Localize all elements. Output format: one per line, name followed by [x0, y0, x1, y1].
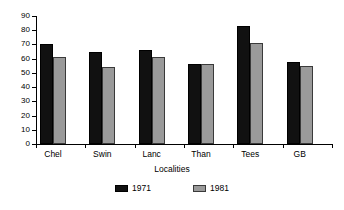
bar-tees-1971 [237, 26, 250, 144]
legend-item-1981: 1981 [193, 184, 229, 193]
x-category-label-chel: Chel [44, 150, 61, 159]
bar-chel-1981 [53, 57, 66, 144]
x-tick [332, 144, 333, 148]
bar-group [139, 16, 165, 144]
bar-tees-1981 [250, 43, 263, 144]
bar-group [287, 16, 313, 144]
bar-group [89, 16, 115, 144]
bar-gb-1971 [287, 62, 300, 144]
bar-than-1971 [188, 64, 201, 144]
legend-label-1981: 1981 [210, 184, 229, 193]
legend-label-1971: 1971 [132, 184, 151, 193]
bar-group [237, 16, 263, 144]
bar-chel-1971 [40, 44, 53, 144]
bar-gb-1981 [300, 66, 313, 144]
x-category-label-gb: GB [294, 150, 306, 159]
x-category-label-than: Than [191, 150, 210, 159]
bar-group [188, 16, 214, 144]
bar-group [40, 16, 66, 144]
bar-than-1981 [201, 64, 214, 144]
y-tick-label: 30 [21, 97, 30, 105]
legend-swatch-icon-1971 [115, 185, 128, 192]
bar-swin-1981 [102, 67, 115, 144]
x-tick [283, 144, 284, 148]
y-tick-label: 90 [21, 12, 30, 20]
x-tick [135, 144, 136, 148]
bar-lanc-1971 [139, 50, 152, 144]
x-tick [184, 144, 185, 148]
legend-item-1971: 1971 [115, 184, 151, 193]
chart-legend: 1971 1981 [0, 184, 344, 193]
chart-title-cropped [0, 0, 344, 7]
y-tick-label: 0 [26, 140, 30, 148]
x-tick [233, 144, 234, 148]
x-axis-title: Localities [154, 165, 189, 174]
y-tick-label: 20 [21, 112, 30, 120]
y-tick-label: 40 [21, 83, 30, 91]
x-category-label-lanc: Lanc [142, 150, 160, 159]
y-tick-label: 10 [21, 126, 30, 134]
legend-swatch-icon-1981 [193, 185, 206, 192]
x-tick [85, 144, 86, 148]
bar-chart: 0102030405060708090 ChelSwinLancThanTees… [0, 0, 344, 210]
y-tick-label: 60 [21, 55, 30, 63]
x-category-label-tees: Tees [241, 150, 259, 159]
y-tick-label: 80 [21, 26, 30, 34]
bar-lanc-1981 [152, 57, 165, 144]
y-tick-label: 50 [21, 69, 30, 77]
bar-swin-1971 [89, 52, 102, 144]
y-tick-label: 70 [21, 40, 30, 48]
plot-area: 0102030405060708090 [36, 16, 332, 144]
bar-groups [36, 16, 332, 144]
x-category-label-swin: Swin [93, 150, 111, 159]
x-tick [36, 144, 37, 148]
